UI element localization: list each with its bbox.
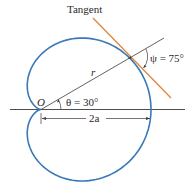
psi-arrowhead [144,65,147,68]
radius-line [41,38,164,110]
radius-label: r [91,66,96,78]
dimension-arrow-left [42,117,46,120]
dimension-arrow-right [146,117,150,120]
tangent-label: Tangent [67,3,102,15]
diameter-label: 2a [89,112,100,124]
theta-label: θ = 30° [66,96,98,108]
psi-label: ψ = 75° [150,52,184,64]
psi-angle-arc [144,49,148,68]
origin-label: O [37,96,45,108]
cardioid-diagram: Tangent ψ = 75° O r θ = 30° 2a [0,0,195,194]
